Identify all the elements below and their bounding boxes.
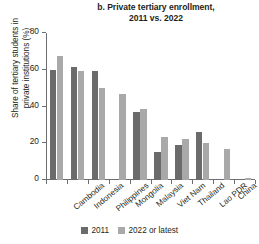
bar [92, 71, 98, 180]
bar-group [151, 33, 172, 180]
bar-group [171, 33, 192, 180]
chart-title: b. Private tertiary enrollment, 2011 vs.… [58, 2, 254, 24]
y-axis-tick-label: 80 [17, 26, 39, 36]
bar-group [130, 33, 151, 180]
bar-group [88, 33, 109, 180]
y-axis-tick-label: 40 [17, 100, 39, 110]
bar-group [213, 33, 234, 180]
legend-swatch-icon [118, 227, 125, 234]
bar [154, 152, 160, 180]
legend-swatch-icon [81, 227, 88, 234]
bar [196, 132, 202, 180]
bar-group [109, 33, 130, 180]
bar-group [46, 33, 67, 180]
chart-figure: b. Private tertiary enrollment, 2011 vs.… [0, 0, 259, 244]
bar [119, 94, 125, 180]
bar [140, 109, 146, 180]
bar [57, 56, 63, 180]
bar-group [67, 33, 88, 180]
bar [224, 149, 230, 180]
legend-label: 2022 or latest [128, 226, 178, 235]
bar [78, 71, 84, 180]
bar [50, 70, 56, 180]
plot-area: 020406080 [46, 33, 255, 180]
bar-series-container [46, 33, 255, 180]
bar [161, 137, 167, 180]
legend-item: 2022 or latest [118, 226, 178, 235]
bar [99, 88, 105, 180]
y-axis-tick-label: 0 [17, 173, 39, 183]
chart-legend: 20112022 or latest [0, 226, 259, 235]
bar [182, 139, 188, 180]
bar [245, 178, 251, 180]
bar [133, 112, 139, 180]
bar [71, 67, 77, 180]
bar-group [192, 33, 213, 180]
chart-title-line-2: 2011 vs. 2022 [58, 13, 254, 24]
y-axis-tick-label: 60 [17, 63, 39, 73]
bar-group [234, 33, 255, 180]
legend-label: 2011 [91, 226, 109, 235]
bar [203, 143, 209, 180]
y-axis-tick-label: 20 [17, 136, 39, 146]
bar [175, 145, 181, 180]
x-axis-category-labels: CambodiaIndonesiaPhilippinesMongoliaMala… [46, 181, 255, 223]
chart-title-line-1: b. Private tertiary enrollment, [58, 2, 254, 13]
legend-item: 2011 [81, 226, 109, 235]
